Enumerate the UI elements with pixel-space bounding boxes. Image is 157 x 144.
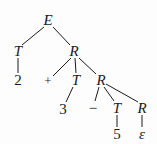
tree-edge xyxy=(53,58,71,76)
tree-edge xyxy=(66,87,73,102)
leaf-epsilon: ε xyxy=(139,127,145,142)
leaf-3: 3 xyxy=(59,102,67,117)
leaf-5: 5 xyxy=(113,127,121,142)
parse-tree-diagram: E T R 2 + T R 3 − T R 5 ε xyxy=(0,0,157,144)
node-T-left: T xyxy=(14,44,22,59)
tree-edge xyxy=(106,84,138,102)
tree-edge xyxy=(79,58,96,74)
node-T-2: T xyxy=(72,73,80,88)
node-R-1: R xyxy=(69,44,78,59)
leaf-plus: + xyxy=(45,75,52,87)
node-R-3: R xyxy=(137,101,146,116)
node-T-3: T xyxy=(113,101,121,116)
node-R-2: R xyxy=(96,73,105,88)
node-E-root: E xyxy=(43,13,52,28)
tree-edge xyxy=(22,27,44,45)
tree-edge xyxy=(53,27,70,45)
leaf-2: 2 xyxy=(14,73,22,88)
leaf-minus: − xyxy=(89,101,97,116)
